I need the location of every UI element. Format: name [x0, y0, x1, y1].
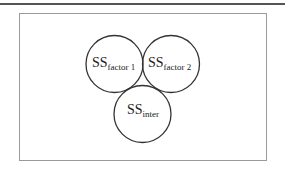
label-sub: factor 2 [164, 62, 192, 72]
label-main: SS [148, 55, 164, 70]
label-sub: factor 1 [108, 62, 136, 72]
label-main: SS [127, 102, 143, 117]
svg-text:SSinter: SSinter [127, 102, 159, 119]
circle-interaction: SSinter [114, 86, 171, 143]
svg-text:SSfactor 1: SSfactor 1 [92, 55, 135, 72]
svg-text:SSfactor 2: SSfactor 2 [148, 55, 191, 72]
label-main: SS [92, 55, 108, 70]
circle-factor-2: SSfactor 2 [143, 36, 200, 93]
circle-factor-1: SSfactor 1 [86, 36, 143, 93]
venn-diagram: SSfactor 1 SSfactor 2 SSinter [0, 0, 285, 171]
label-sub: inter [143, 109, 160, 119]
